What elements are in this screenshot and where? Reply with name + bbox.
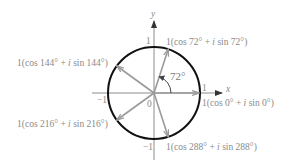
vector-72deg — [154, 49, 168, 93]
label-288deg: 1(cos 288° + i sin 288°) — [166, 142, 257, 153]
tick-y-neg: −1 — [143, 142, 153, 152]
vector-288deg — [154, 93, 168, 137]
label-0deg: 1(cos 0° + i sin 0°) — [202, 98, 274, 109]
origin-label: 0 — [147, 99, 152, 109]
label-144deg: 1(cos 144° + i sin 144°) — [17, 58, 108, 69]
vector-144deg — [117, 66, 154, 93]
y-axis-label: y — [150, 9, 156, 19]
angle-label: 72° — [170, 70, 185, 82]
tick-x-neg: −1 — [97, 95, 107, 105]
tick-y-pos: 1 — [146, 36, 151, 46]
tick-x-pos: 1 — [202, 83, 207, 93]
label-72deg: 1(cos 72° + i sin 72°) — [166, 37, 247, 48]
unit-circle-diagram: x y 72° 1 −1 1 −1 0 1(cos 72° + i sin 72… — [0, 0, 290, 167]
label-216deg: 1(cos 216° + i sin 216°) — [17, 119, 108, 130]
x-axis-label: x — [225, 84, 231, 94]
